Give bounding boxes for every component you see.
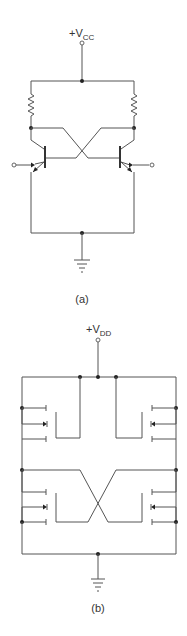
- cross-wire-left: [22, 470, 142, 522]
- mosfet-lower-left-icon: [22, 470, 47, 525]
- vdd-terminal-icon: [96, 338, 100, 342]
- resistor-left-icon: [28, 81, 34, 128]
- panel-b-mos-latch: +VDD: [20, 323, 178, 614]
- npn-transistor-right-icon: [120, 128, 149, 233]
- resistor-right-icon: [131, 81, 137, 128]
- npn-transistor-left-icon: [16, 128, 45, 233]
- junction-dot-icon: [80, 79, 84, 83]
- caption-b: (b): [91, 602, 104, 614]
- caption-a: (a): [75, 293, 88, 305]
- mosfet-upper-left-icon: [22, 377, 80, 442]
- cross-wire-right: [56, 470, 176, 522]
- junction-dot-icon: [96, 375, 100, 379]
- input-right-terminal-icon: [150, 163, 154, 167]
- vcc-terminal-icon: [80, 41, 84, 45]
- ground-icon: [74, 260, 90, 272]
- vcc-label: +VCC: [69, 27, 95, 42]
- panel-a-bjt-latch: +VCC: [12, 27, 154, 305]
- ground-icon: [91, 579, 105, 591]
- input-left-terminal-icon: [12, 163, 16, 167]
- mosfet-lower-right-icon: [151, 470, 176, 525]
- circuit-figure: +VCC: [0, 0, 187, 636]
- vdd-label: +VDD: [86, 323, 112, 338]
- mosfet-upper-right-icon: [116, 377, 176, 442]
